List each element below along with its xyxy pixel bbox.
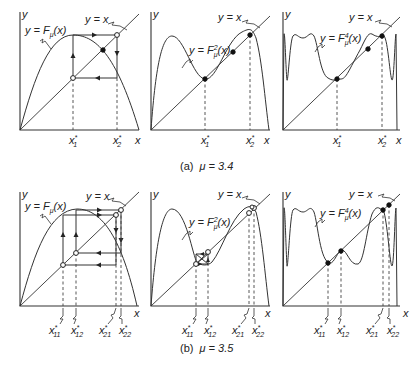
label-pointer [242, 20, 260, 28]
tick-pointer [387, 308, 390, 324]
tick-pointer [193, 308, 196, 324]
tick-x22: x*22 [118, 324, 131, 338]
y-axis-label: y [21, 188, 29, 200]
x-axis-label: x [264, 307, 271, 319]
panel-a1: y x y = x y = Fμ(x) x*1 x*2 [20, 8, 141, 148]
caption-a: (a)μ = 3.4 [180, 160, 233, 172]
tick-x1: x*1 [68, 134, 78, 148]
periodic-point [335, 77, 339, 81]
x-axis-label: x [263, 134, 270, 146]
tick-x11: x*11 [313, 324, 326, 338]
panel-b3: y x y = x y = F4μ(x) x*11 x*12 x*21 x*22 [283, 188, 409, 338]
arrow-right-icon [92, 33, 97, 38]
periodic-point [206, 250, 211, 255]
map-curve [20, 209, 137, 306]
tick-pointer [205, 308, 208, 324]
curve-label: y = F2μ(x) [188, 44, 231, 59]
periodic-point [119, 208, 124, 213]
label-pointer [108, 22, 127, 30]
periodic-point [115, 33, 120, 38]
periodic-point [247, 211, 252, 216]
panel-b1: y x y = x y = Fμ(x) x*11 x*12 x*21 x*22 [20, 188, 140, 338]
tick-x12: x*12 [203, 324, 216, 338]
tick-x21: x*21 [365, 324, 378, 338]
identity-label: y = x [348, 188, 373, 200]
tick-pointer [108, 308, 116, 324]
tick-pointer [119, 308, 122, 324]
label-pointer [242, 196, 260, 204]
tick-x2: x*2 [377, 134, 387, 148]
y-axis-label: y [152, 8, 160, 20]
map-curve [20, 35, 139, 130]
logistic-map-figure: y x y = x y = Fμ(x) x*1 x*2 y x y = x y … [0, 0, 419, 368]
panel-b2: y x y = x y = F2μ(x) x*11 x*12 x*21 x*22 [151, 188, 271, 338]
arrow-up-icon [74, 232, 79, 237]
y-axis-label: y [284, 8, 292, 20]
periodic-point [380, 34, 384, 38]
panel-a2: y x y = x y = F2μ(x) x*1 x*2 [151, 8, 270, 148]
unstable-fixed-point [366, 47, 370, 51]
identity-label: y = x [348, 11, 373, 23]
tick-x11: x*11 [48, 324, 61, 338]
periodic-point [381, 208, 385, 212]
periodic-point [248, 33, 252, 37]
caption-b: (b)μ = 3.5 [180, 342, 234, 354]
curve-label: y = Fμ(x) [24, 24, 67, 39]
periodic-point [250, 205, 254, 209]
identity-label: y = x [84, 13, 109, 25]
tick-x21: x*21 [231, 324, 244, 338]
periodic-point [339, 249, 343, 253]
arrow-left-icon [95, 76, 100, 81]
tick-x2: x*2 [112, 134, 122, 148]
tick-x22: x*22 [251, 324, 264, 338]
label-pointer [375, 20, 392, 27]
x-axis-label: x [402, 307, 409, 319]
tick-x21: x*21 [98, 324, 111, 338]
tick-pointer [325, 308, 328, 324]
tick-pointer [60, 308, 63, 324]
tick-pointer [252, 308, 255, 324]
periodic-point [114, 213, 119, 218]
arrow-down-icon [115, 51, 120, 56]
y-axis-label: y [21, 8, 29, 20]
arrow-right-icon [97, 213, 102, 218]
label-pointer [108, 198, 126, 206]
tick-x22: x*22 [386, 324, 399, 338]
curve-label: y = F4μ(x) [319, 32, 362, 47]
identity-line [151, 16, 270, 130]
label-pointer [378, 194, 395, 201]
unstable-fixed-point [231, 50, 235, 54]
arrow-right-icon [97, 208, 102, 213]
curve-label: y = F2μ(x) [188, 216, 231, 231]
tick-pointer [338, 308, 341, 324]
tick-x12: x*12 [70, 324, 83, 338]
x-axis-label: x [133, 307, 140, 319]
tick-pointer [73, 308, 76, 324]
y-axis-label: y [152, 188, 160, 200]
axes [283, 12, 400, 130]
identity-label: y = x [217, 11, 242, 23]
arrow-left-icon [200, 252, 204, 256]
identity-label: y = x [85, 190, 110, 202]
curve-label: y = F4μ(x) [319, 207, 362, 222]
map4-curve [283, 208, 397, 306]
periodic-point [326, 261, 330, 265]
periodic-point [71, 76, 76, 81]
tick-x1: x*1 [200, 134, 210, 148]
arrow-up-icon [71, 53, 76, 58]
curve-label: y = Fμ(x) [24, 200, 67, 215]
panel-a3: y x y = x y = F4μ(x) x*1 x*2 [283, 8, 402, 148]
tick-pointer [241, 308, 249, 324]
arrow-left-icon [96, 251, 101, 256]
tick-x1: x*1 [332, 134, 342, 148]
periodic-point [74, 251, 79, 256]
map4-curve [283, 34, 397, 130]
periodic-point [203, 77, 207, 81]
arrow-up-icon [61, 232, 66, 237]
tick-x2: x*2 [245, 134, 255, 148]
unstable-fixed-point [101, 48, 105, 52]
tick-x11: x*11 [181, 324, 194, 338]
x-axis-label: x [134, 134, 141, 146]
periodic-point [387, 203, 391, 207]
label-pointer [40, 39, 51, 49]
